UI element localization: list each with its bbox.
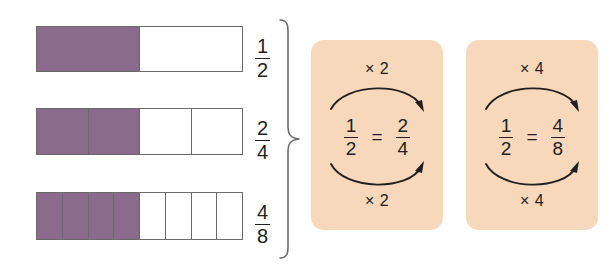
bar-cell-empty — [192, 193, 218, 239]
bar-cell-shaded — [37, 109, 89, 154]
fraction-denominator: 2 — [255, 58, 270, 81]
bar-cell-shaded — [37, 193, 63, 239]
fraction-numerator: 1 — [255, 36, 270, 57]
bar-cell-empty — [217, 193, 242, 239]
fraction-bar-four-eighths — [36, 192, 243, 240]
equivalence-card-times-two[interactable]: × 2 1 2 = 2 4 × 2 — [311, 40, 443, 230]
fraction-denominator: 4 — [255, 140, 270, 163]
fraction-diagram: 1 2 2 4 4 8 — [0, 0, 614, 277]
fraction: 2 4 — [255, 118, 270, 163]
right-fraction: 2 4 — [396, 116, 411, 159]
bar-cell-shaded — [89, 109, 141, 154]
equivalence-card-times-four[interactable]: × 4 1 2 = 4 8 × 4 — [466, 40, 598, 230]
operation-label-bottom: × 2 — [365, 192, 389, 210]
fraction-numerator: 2 — [255, 118, 270, 139]
fraction-denominator: 8 — [255, 224, 270, 247]
right-fraction: 4 8 — [551, 116, 566, 159]
bar-cell-empty — [140, 109, 192, 154]
fraction: 4 8 — [255, 202, 270, 247]
fraction-denominator: 2 — [344, 137, 359, 159]
brace-icon — [276, 18, 304, 260]
fraction-bar-one-half — [36, 26, 243, 72]
fraction: 1 2 — [255, 36, 270, 81]
bar-cell-shaded — [89, 193, 115, 239]
bar-cell-shaded — [63, 193, 89, 239]
fraction-label-four-eighths: 4 8 — [255, 201, 270, 247]
equation-row: 1 2 = 2 4 — [311, 114, 443, 160]
fraction-numerator: 2 — [396, 116, 411, 136]
fraction-denominator: 4 — [396, 137, 411, 159]
left-fraction: 1 2 — [499, 116, 514, 159]
fraction-numerator: 1 — [344, 116, 359, 136]
fraction-denominator: 2 — [499, 137, 514, 159]
fraction-numerator: 4 — [255, 202, 270, 223]
left-fraction: 1 2 — [344, 116, 359, 159]
operation-label-bottom: × 4 — [520, 192, 544, 210]
bar-cell-empty — [140, 193, 166, 239]
fraction-numerator: 4 — [551, 116, 566, 136]
operation-label-top: × 2 — [365, 60, 389, 78]
bar-cell-shaded — [114, 193, 140, 239]
fraction-label-two-fourths: 2 4 — [255, 117, 270, 163]
fraction-bar-two-fourths — [36, 108, 243, 155]
fraction-denominator: 8 — [551, 137, 566, 159]
bar-cell-empty — [192, 109, 243, 154]
bar-cell-empty — [140, 27, 242, 71]
bar-cell-shaded — [37, 27, 140, 71]
bar-cell-empty — [166, 193, 192, 239]
fraction-numerator: 1 — [499, 116, 514, 136]
operation-label-top: × 4 — [520, 60, 544, 78]
equation-row: 1 2 = 4 8 — [466, 114, 598, 160]
fraction-label-one-half: 1 2 — [255, 35, 270, 81]
equals-sign: = — [526, 126, 537, 148]
equals-sign: = — [371, 126, 382, 148]
